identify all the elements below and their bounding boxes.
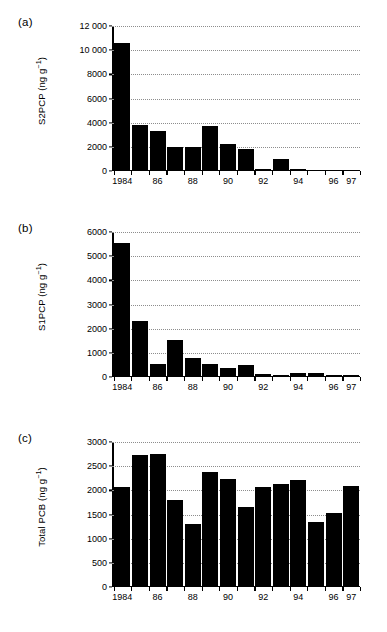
bar [273, 159, 289, 170]
bar [326, 513, 342, 586]
x-tick-mark [325, 587, 326, 591]
x-tick-mark [360, 171, 361, 175]
exponent: −1 [34, 470, 43, 478]
x-tick-mark [149, 587, 150, 591]
bar [167, 500, 183, 586]
x-tick-label: 1984 [112, 592, 132, 602]
x-tick-label: 86 [153, 176, 163, 186]
x-tick-label: 88 [188, 382, 198, 392]
bar [220, 144, 236, 170]
x-tick-mark [166, 171, 167, 175]
y-tick-label: 10 000 [79, 45, 107, 55]
bar [273, 375, 289, 376]
figure-three-panel-bar-chart: (a) S2PCP (ng g−1) 198486889092949697 02… [0, 0, 387, 632]
y-tick-mark [109, 490, 113, 491]
y-tick-mark [109, 376, 113, 377]
y-tick-label: 6000 [87, 227, 107, 237]
x-tick-label: 97 [346, 176, 356, 186]
plot-area-a: 198486889092949697 0200040006000800010 0… [112, 26, 360, 171]
x-tick-label: 97 [346, 382, 356, 392]
bar [132, 455, 148, 586]
y-tick-mark [109, 586, 113, 587]
x-tick-label: 88 [188, 176, 198, 186]
x-axis-ticks-c: 198486889092949697 [112, 587, 360, 609]
x-tick-label: 96 [329, 382, 339, 392]
x-tick-mark [272, 171, 273, 175]
x-tick-mark [342, 587, 343, 591]
y-axis-label-a: S2PCP (ng g−1) [36, 6, 50, 176]
y-tick-mark [109, 352, 113, 353]
x-axis-ticks-a: 198486889092949697 [112, 171, 360, 193]
x-tick-mark [290, 587, 291, 591]
exponent: −1 [34, 266, 43, 274]
bar [132, 125, 148, 170]
bar [185, 358, 201, 376]
x-tick-mark [131, 587, 132, 591]
bar [150, 364, 166, 376]
bar [150, 131, 166, 170]
x-tick-label: 86 [153, 592, 163, 602]
x-tick-mark [290, 377, 291, 381]
panel-label-c: (c) [18, 432, 32, 444]
x-tick-mark [237, 587, 238, 591]
y-tick-label: 3000 [87, 437, 107, 447]
x-tick-label: 92 [258, 176, 268, 186]
x-tick-label: 94 [293, 592, 303, 602]
x-tick-mark [202, 171, 203, 175]
y-tick-label: 1500 [87, 510, 107, 520]
bar [255, 374, 271, 376]
y-tick-label: 4000 [87, 118, 107, 128]
x-tick-mark [254, 171, 255, 175]
x-tick-label: 97 [346, 592, 356, 602]
y-tick-label: 1000 [87, 348, 107, 358]
x-tick-label: 92 [258, 382, 268, 392]
bar-series-a [114, 26, 361, 170]
x-tick-mark [149, 171, 150, 175]
x-tick-mark [114, 377, 115, 381]
x-tick-label: 94 [293, 176, 303, 186]
y-tick-label: 8000 [87, 69, 107, 79]
y-tick-label: 2000 [87, 142, 107, 152]
x-tick-mark [202, 377, 203, 381]
y-tick-mark [109, 538, 113, 539]
x-tick-mark [272, 587, 273, 591]
y-tick-label: 4000 [87, 275, 107, 285]
bar [290, 480, 306, 586]
x-tick-mark [360, 377, 361, 381]
x-tick-mark [272, 377, 273, 381]
y-tick-mark [109, 256, 113, 257]
x-tick-mark [166, 377, 167, 381]
y-tick-label: 0 [102, 582, 107, 592]
x-tick-mark [325, 377, 326, 381]
y-tick-mark [109, 25, 113, 26]
exponent: −1 [34, 60, 43, 68]
x-tick-label: 88 [188, 592, 198, 602]
plot-area-b: 198486889092949697 010002000300040005000… [112, 232, 360, 377]
bar [238, 149, 254, 170]
y-tick-label: 2000 [87, 324, 107, 334]
y-tick-mark [109, 122, 113, 123]
y-tick-label: 1000 [87, 534, 107, 544]
bar [114, 243, 130, 376]
bar [132, 321, 148, 376]
x-tick-mark [307, 587, 308, 591]
x-tick-label: 90 [223, 592, 233, 602]
x-tick-mark [325, 171, 326, 175]
x-tick-mark [184, 377, 185, 381]
y-tick-mark [109, 514, 113, 515]
y-tick-mark [109, 74, 113, 75]
y-tick-mark [109, 441, 113, 442]
x-tick-label: 86 [153, 382, 163, 392]
bar [167, 147, 183, 170]
y-tick-mark [109, 466, 113, 467]
bar [150, 454, 166, 586]
bar [255, 487, 271, 586]
x-tick-mark [131, 171, 132, 175]
x-tick-mark [237, 377, 238, 381]
x-tick-mark [114, 171, 115, 175]
bar [185, 147, 201, 170]
x-tick-label: 1984 [112, 382, 132, 392]
x-axis-ticks-b: 198486889092949697 [112, 377, 360, 399]
y-tick-mark [109, 280, 113, 281]
bar [167, 340, 183, 376]
